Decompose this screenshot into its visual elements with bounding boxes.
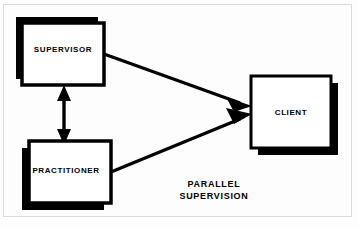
edge-practitioner-to-client-line <box>111 119 240 172</box>
supervisor-box[interactable] <box>22 23 104 85</box>
diagram-canvas: SUPERVISOR PRACTITIONER CLIENT PARALLEL … <box>0 0 358 227</box>
caption-line-2: SUPERVISION <box>158 190 270 202</box>
diagram-caption: PARALLEL SUPERVISION <box>158 178 270 202</box>
caption-line-1: PARALLEL <box>158 178 270 190</box>
edge-supervisor-to-client <box>104 54 252 112</box>
edge-supervisor-practitioner-arrowhead-up <box>57 85 71 101</box>
edge-supervisor-practitioner-double-arrow <box>57 85 71 145</box>
supervisor-label: SUPERVISOR <box>25 45 101 54</box>
edge-supervisor-to-client-line <box>104 54 240 103</box>
client-label: CLIENT <box>258 108 324 117</box>
edge-practitioner-to-client <box>111 108 252 172</box>
practitioner-label: PRACTITIONER <box>23 166 109 175</box>
